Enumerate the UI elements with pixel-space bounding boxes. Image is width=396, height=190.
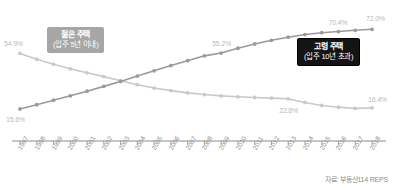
data-point (253, 96, 257, 100)
source-attribution: 자료: 부동산114 REPS (325, 174, 388, 184)
data-point (286, 97, 290, 101)
data-point (18, 52, 22, 56)
data-point (186, 91, 190, 95)
data-point (236, 95, 240, 99)
data-point (102, 84, 106, 88)
value-label: 70.4% (328, 19, 347, 26)
data-point (35, 103, 39, 107)
data-point (370, 106, 374, 110)
data-point (85, 71, 89, 75)
data-point (68, 67, 72, 71)
data-point (236, 46, 240, 50)
data-point (353, 107, 357, 111)
value-label: 54.9% (4, 40, 23, 47)
value-label: 55.2% (212, 40, 231, 47)
data-point (270, 96, 274, 100)
chart-screenshot: 54.9%22.8%16.4%15.6%55.2%70.4%72.0% 젊은 주… (0, 0, 396, 190)
data-point (169, 64, 173, 68)
data-point (18, 107, 22, 111)
value-label: 72.0% (366, 15, 385, 22)
data-point (202, 93, 206, 97)
data-point (152, 69, 156, 73)
data-point (370, 27, 374, 31)
legend-callout-young-housing: 젊은 주택 (입주 5년 이내) (47, 27, 104, 53)
data-point (68, 94, 72, 98)
data-point (35, 57, 39, 61)
data-point (353, 28, 357, 32)
data-point (186, 59, 190, 63)
data-point (135, 83, 139, 87)
data-point (152, 86, 156, 90)
data-point (337, 105, 341, 109)
data-point (119, 80, 123, 84)
data-point (320, 31, 324, 35)
data-point (52, 98, 56, 102)
value-label: 16.4% (368, 96, 387, 103)
data-point (219, 51, 223, 55)
data-point (303, 101, 307, 105)
value-label: 22.8% (279, 107, 298, 114)
data-point (85, 89, 89, 93)
data-point (52, 62, 56, 66)
data-point (286, 35, 290, 39)
callout-young-line1: 젊은 주택 (53, 30, 98, 40)
data-point (270, 38, 274, 42)
data-point (303, 33, 307, 37)
data-point (337, 30, 341, 34)
data-point (169, 89, 173, 93)
data-point (320, 104, 324, 108)
legend-callout-old-housing: 고령 주택 (입주 10년 초과) (297, 38, 360, 66)
data-point (253, 42, 257, 46)
data-point (219, 94, 223, 98)
data-point (135, 74, 139, 78)
data-point (102, 75, 106, 79)
value-label: 15.6% (6, 116, 25, 123)
callout-old-line2: (입주 10년 초과) (304, 52, 353, 61)
callout-young-line2: (입주 5년 이내) (53, 40, 98, 49)
callout-old-line1: 고령 주택 (304, 42, 353, 52)
data-point (202, 54, 206, 58)
